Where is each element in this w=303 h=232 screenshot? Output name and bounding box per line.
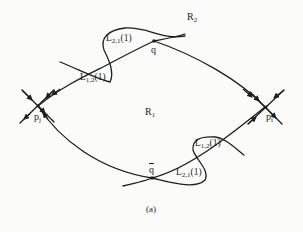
loop-label-bottom-l21: L2,1(1) bbox=[176, 168, 202, 179]
node-label-pi: pi bbox=[266, 112, 273, 124]
region-label-r1: R1 bbox=[145, 107, 155, 119]
q-stub bbox=[154, 34, 185, 41]
lower-branch-left bbox=[38, 106, 152, 178]
loop-sub: 1,2 bbox=[86, 76, 95, 84]
region-r1-letter: R bbox=[145, 106, 152, 117]
loop-arg: (1) bbox=[95, 72, 106, 82]
node-pi-dot bbox=[265, 106, 268, 109]
loop-label-top-l12: L1,2(1) bbox=[80, 73, 106, 84]
node-label-qbar: q bbox=[149, 165, 154, 175]
loop-sub: 2,1 bbox=[182, 171, 191, 179]
loop-arg: (1) bbox=[210, 138, 221, 148]
node-pj-dot bbox=[37, 105, 40, 108]
node-qbar-letter: q bbox=[149, 165, 154, 175]
node-label-pj: pj bbox=[34, 112, 41, 124]
node-q-letter: q bbox=[151, 44, 156, 55]
region-r2-sub: 2 bbox=[194, 16, 198, 24]
loop-arg: (1) bbox=[121, 33, 132, 43]
loop-sub: 2,1 bbox=[112, 37, 121, 45]
loop-label-top-l21: L2,1(1) bbox=[106, 34, 132, 45]
node-pj-sub: j bbox=[39, 116, 41, 124]
loop-label-bottom-l12: L1,2(1) bbox=[195, 139, 221, 150]
figure-caption: (a) bbox=[146, 205, 156, 214]
region-r1-sub: 1 bbox=[152, 111, 156, 119]
node-q-dot bbox=[152, 39, 156, 43]
node-label-q: q bbox=[151, 45, 156, 55]
upper-branch-right bbox=[154, 41, 265, 107]
loop-arg: (1) bbox=[191, 167, 202, 177]
node-qbar-dot bbox=[150, 176, 154, 180]
loop-sub: 1,2 bbox=[201, 142, 210, 150]
node-pi-sub: i bbox=[271, 116, 273, 124]
region-r2-letter: R bbox=[187, 11, 194, 22]
region-label-r2: R2 bbox=[187, 12, 197, 24]
diagram-figure: R2 R1 q q pj pi L2,1(1) L1,2(1) L1,2(1) … bbox=[0, 0, 303, 232]
